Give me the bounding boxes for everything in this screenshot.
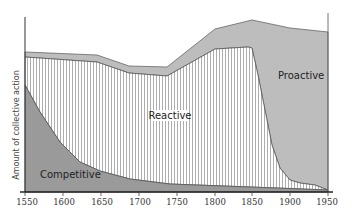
stacked-area-chart: 1550 1600 1650 1700 1750 1800 1850 1900 … bbox=[0, 0, 353, 216]
x-tick-1900: 1900 bbox=[279, 197, 301, 207]
x-tick-1650: 1650 bbox=[91, 197, 113, 207]
x-tick-1800: 1800 bbox=[204, 197, 226, 207]
x-tick-1550: 1550 bbox=[16, 197, 38, 207]
x-tick-labels: 1550 1600 1650 1700 1750 1800 1850 1900 … bbox=[16, 197, 338, 207]
x-tick-1950: 1950 bbox=[316, 197, 338, 207]
competitive-label: Competitive bbox=[40, 169, 101, 180]
x-tick-1700: 1700 bbox=[129, 197, 151, 207]
x-tick-1600: 1600 bbox=[53, 197, 75, 207]
x-tick-1750: 1750 bbox=[166, 197, 188, 207]
y-axis-label: Amount of collective action bbox=[12, 70, 21, 179]
x-tick-1850: 1850 bbox=[241, 197, 263, 207]
reactive-label: Reactive bbox=[148, 110, 191, 121]
proactive-label: Proactive bbox=[278, 70, 324, 81]
